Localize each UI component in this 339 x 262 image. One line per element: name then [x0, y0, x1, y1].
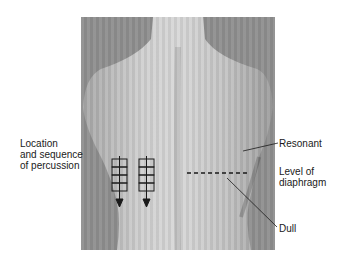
diaphragm-level-label: Level of diaphragm — [279, 166, 326, 188]
percussion-location-label: Location and sequence of percussion — [20, 138, 83, 171]
dull-leader-line — [227, 178, 277, 227]
percussion-grid-right — [139, 156, 154, 207]
dull-label: Dull — [279, 223, 296, 234]
percussion-grid-left — [112, 156, 127, 207]
arrow-down-icon — [143, 199, 150, 207]
resonant-label: Resonant — [279, 138, 322, 149]
arrow-down-icon — [116, 199, 123, 207]
resonant-leader-line — [243, 143, 278, 151]
